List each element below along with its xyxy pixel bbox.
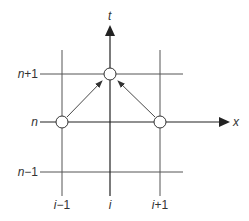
col-label-i-minus-1: i−1 <box>54 198 71 212</box>
row-label-n-minus-1: n−1 <box>18 165 39 179</box>
x-axis-arrowhead-icon <box>219 117 230 127</box>
arrow-right-to-center <box>118 81 155 117</box>
x-axis-label: x <box>232 115 240 129</box>
col-label-i: i <box>109 198 112 212</box>
stencil-diagram: t x n+1 n n−1 i−1 i i+1 <box>0 0 249 221</box>
col-label-i-plus-1: i+1 <box>152 198 169 212</box>
arrow-left-to-center <box>67 81 102 117</box>
row-label-n: n <box>31 115 38 129</box>
node-i-plus-1-n <box>154 116 166 128</box>
node-i-n-plus-1 <box>104 68 116 80</box>
node-i-minus-1-n <box>56 116 68 128</box>
t-axis-arrowhead-icon <box>105 25 115 36</box>
row-label-n-plus-1: n+1 <box>18 67 39 81</box>
t-axis-label: t <box>108 9 112 23</box>
